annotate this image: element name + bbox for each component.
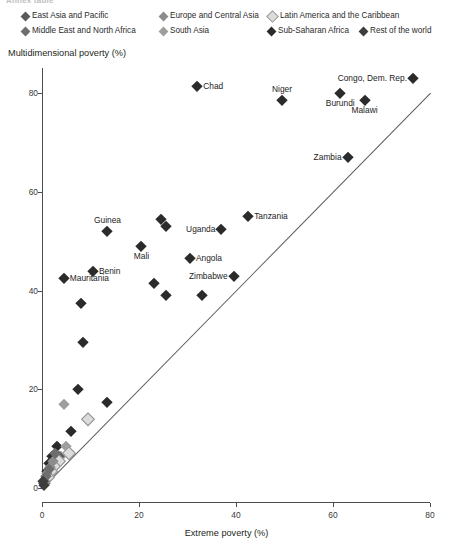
data-point[interactable] [185,253,196,264]
data-point-label: Guinea [94,215,121,225]
x-axis-tick-label: 0 [27,510,57,520]
y-axis-tick-label: 40 [16,286,38,296]
data-point-label: Tanzania [254,211,288,221]
y-axis-title: Multidimensional poverty (%) [8,48,126,58]
y-axis-tick-label: 0 [16,483,38,493]
data-point[interactable] [73,384,84,395]
data-point[interactable] [136,241,147,252]
data-point[interactable] [408,73,419,84]
y-axis-tick-label: 20 [16,384,38,394]
data-point-label: Angola [196,253,222,263]
x-axis-tick [42,503,43,507]
data-point-label: Mali [134,251,149,261]
data-point-label: Zambia [314,152,342,162]
data-point[interactable] [342,152,353,163]
y-axis-tick-label: 80 [16,88,38,98]
identity-reference-line [42,93,431,489]
y-axis-line [42,68,43,488]
data-point-label: Malawi [351,105,377,115]
y-axis-tick [38,291,42,292]
y-axis-tick-label: 60 [16,187,38,197]
chart-figure: Annex table East Asia and PacificEurope … [0,0,453,548]
data-point-label: Zimbabwe [189,271,228,281]
data-point[interactable] [102,396,113,407]
x-axis-tick [139,503,140,507]
data-point[interactable] [148,278,159,289]
data-point-label: Niger [272,84,292,94]
data-point[interactable] [59,273,70,284]
scatter-plot-area: Multidimensional poverty (%) Extreme pov… [0,0,453,548]
x-axis-tick-label: 60 [318,510,348,520]
data-point-label: Mauritania [70,273,109,283]
data-point-label: Burundi [326,98,355,108]
data-point[interactable] [75,298,86,309]
data-point[interactable] [243,211,254,222]
data-point[interactable] [81,412,94,425]
data-point[interactable] [359,95,370,106]
data-point-label: Uganda [186,224,215,234]
data-point-label: Congo, Dem. Rep. [338,73,407,83]
x-axis-tick-label: 20 [124,510,154,520]
data-point[interactable] [102,226,113,237]
y-axis-tick [38,192,42,193]
x-axis-tick-label: 40 [221,510,251,520]
x-axis-title: Extreme poverty (%) [0,528,453,538]
x-axis-tick [236,503,237,507]
data-point[interactable] [228,270,239,281]
x-axis-tick [430,503,431,507]
x-axis-tick-label: 80 [415,510,445,520]
x-axis-tick [333,503,334,507]
data-point[interactable] [78,337,89,348]
data-point[interactable] [160,290,171,301]
data-point[interactable] [335,88,346,99]
data-point[interactable] [216,223,227,234]
data-point-label: Chad [203,81,223,91]
y-axis-tick [38,389,42,390]
y-axis-tick [38,93,42,94]
data-point[interactable] [59,399,70,410]
data-point[interactable] [66,426,77,437]
data-point[interactable] [277,95,288,106]
data-point[interactable] [192,80,203,91]
data-point[interactable] [197,290,208,301]
